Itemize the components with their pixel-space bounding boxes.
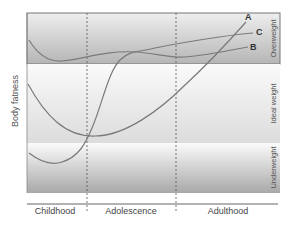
body-fatness-diagram: [0, 0, 291, 229]
phase-childhood: Childhood: [35, 206, 76, 216]
underweight-label: Underweight: [269, 138, 278, 198]
y-axis-label: Body fatness: [10, 64, 20, 138]
curve-a-label: A: [245, 12, 252, 22]
ideal-weight-label: Ideal weight: [269, 74, 278, 134]
phase-adolescence: Adolescence: [105, 206, 157, 216]
overweight-band: [27, 13, 280, 64]
ideal-weight-band: [27, 64, 280, 143]
overweight-label: Overweight: [269, 9, 278, 69]
curve-b-label: B: [250, 42, 257, 52]
curve-c-label: C: [256, 27, 263, 37]
phase-adulthood: Adulthood: [208, 206, 249, 216]
underweight-band: [27, 143, 280, 193]
